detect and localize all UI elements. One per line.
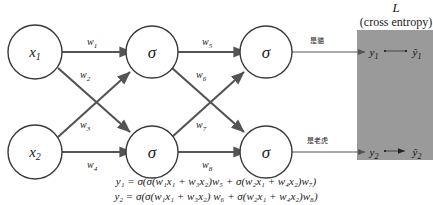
edge-h1-o2 [172, 68, 244, 132]
weight-label-w6: w6 [196, 69, 207, 83]
loss-subtitle: (cross entropy) [360, 15, 432, 29]
node-hidden-1-label: σ [148, 43, 157, 62]
weight-label-w3: w3 [80, 119, 91, 133]
weight-label-w1: w1 [87, 36, 97, 50]
loss-symbol: L [391, 0, 399, 15]
node-output-2-label: σ [262, 143, 271, 162]
loss-box [357, 30, 433, 160]
node-hidden-2-label: σ [148, 143, 157, 162]
edge-x1-h2 [58, 68, 130, 132]
loss-anchor-dot-1a [384, 50, 386, 52]
equation-y2: y₂ = σ(σ(w₁x₁ + w₃x₂) w₆ + σ(w₂x₁ + w₄x₂… [113, 190, 318, 203]
loss-anchor-dot-1b [405, 50, 407, 52]
loss-anchor-dot-2a [384, 150, 386, 152]
edge-h2-o1 [172, 72, 244, 137]
class-label-tiger: 是老虎 [307, 136, 328, 145]
weight-label-w5: w5 [202, 36, 213, 50]
neural-network-figure: x1 x2 σ σ σ σ w1 w2 w3 w4 w5 [0, 0, 433, 205]
equation-y1: y₁ = σ(σ(w₁x₁ + w₃x₂)w₅ + σ(w₂x₁ + w₄x₂)… [115, 175, 317, 188]
node-output-1-label: σ [262, 43, 271, 62]
network-canvas: x1 x2 σ σ σ σ w1 w2 w3 w4 w5 [0, 0, 433, 205]
weight-label-w8: w8 [202, 159, 213, 173]
class-label-cat: 是貓 [310, 36, 324, 45]
weight-label-w7: w7 [196, 119, 207, 133]
weight-label-w2: w2 [80, 69, 91, 83]
weight-label-w4: w4 [87, 159, 98, 173]
edge-x2-h1 [58, 72, 130, 137]
